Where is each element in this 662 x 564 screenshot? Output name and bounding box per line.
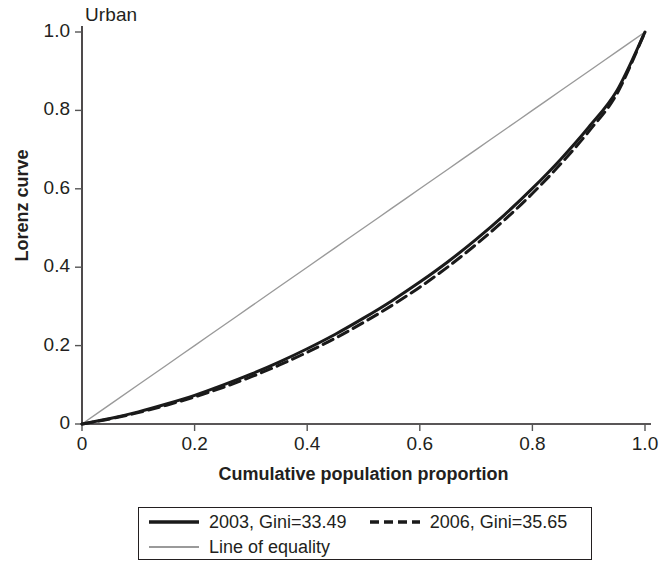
legend-box: 2003, Gini=33.49 2006, Gini=35.65 Lin: [138, 507, 592, 560]
y-axis-tick-marks: [75, 32, 82, 424]
y-tick-label: 1.0: [8, 20, 70, 42]
x-tick-label: 1.0: [605, 433, 662, 455]
x-tick-label: 0.6: [380, 433, 460, 455]
legend-entry-2006: 2006, Gini=35.65: [369, 513, 568, 531]
legend-label-2006: 2006, Gini=35.65: [430, 513, 568, 531]
legend-row-top: 2003, Gini=33.49 2006, Gini=35.65: [148, 509, 567, 535]
y-axis-title: Lorenz curve: [12, 106, 33, 306]
y-tick-label: 0.2: [8, 334, 70, 356]
x-axis-tick-labels: 00.20.40.60.81.0: [0, 433, 662, 459]
y-tick-label: 0: [8, 412, 70, 434]
legend-label-2003: 2003, Gini=33.49: [209, 513, 347, 531]
x-tick-label: 0: [42, 433, 122, 455]
legend-row-bottom: Line of equality: [148, 534, 330, 560]
series-line: [82, 32, 645, 424]
lorenz-curve-figure: Urban 00.20.40.60.81.0 00.20.40.60.81.0 …: [0, 0, 662, 564]
x-tick-label: 0.8: [492, 433, 572, 455]
legend-entry-equality: Line of equality: [148, 538, 330, 556]
legend-label-equality: Line of equality: [209, 538, 330, 556]
legend-line-dashed-icon: [369, 515, 421, 529]
x-tick-label: 0.2: [155, 433, 235, 455]
legend-entry-2003: 2003, Gini=33.49: [148, 513, 347, 531]
legend-line-gray-icon: [148, 540, 200, 554]
plot-canvas: [0, 0, 662, 500]
x-tick-label: 0.4: [267, 433, 347, 455]
legend-line-solid-icon: [148, 515, 200, 529]
x-axis-title: Cumulative population proportion: [82, 464, 645, 485]
panel-title: Urban: [85, 4, 137, 26]
x-axis-tick-marks: [82, 424, 645, 431]
data-series-layer: [82, 32, 645, 424]
